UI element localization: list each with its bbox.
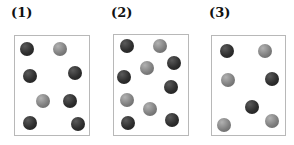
light-particle-icon xyxy=(258,44,272,58)
light-particle-icon xyxy=(221,73,235,87)
dark-particle-icon xyxy=(167,56,181,70)
dark-particle-icon xyxy=(63,94,77,108)
light-particle-icon xyxy=(217,118,231,132)
dark-particle-icon xyxy=(23,116,37,130)
panel-label: (1) xyxy=(11,5,32,20)
dark-particle-icon xyxy=(120,39,134,53)
dark-particle-icon xyxy=(20,42,34,56)
dark-particle-icon xyxy=(164,80,178,94)
dark-particle-icon xyxy=(121,116,135,130)
dark-particle-icon xyxy=(165,113,179,127)
dark-particle-icon xyxy=(68,66,82,80)
light-particle-icon xyxy=(53,42,67,56)
panel-label: (2) xyxy=(111,5,132,20)
light-particle-icon xyxy=(140,61,154,75)
light-particle-icon xyxy=(265,114,279,128)
dark-particle-icon xyxy=(71,117,85,131)
light-particle-icon xyxy=(120,93,134,107)
dark-particle-icon xyxy=(245,100,259,114)
panel-label: (3) xyxy=(209,5,230,20)
light-particle-icon xyxy=(36,94,50,108)
dark-particle-icon xyxy=(265,72,279,86)
dark-particle-icon xyxy=(117,70,131,84)
light-particle-icon xyxy=(153,39,167,53)
dark-particle-icon xyxy=(220,44,234,58)
light-particle-icon xyxy=(143,102,157,116)
dark-particle-icon xyxy=(23,69,37,83)
